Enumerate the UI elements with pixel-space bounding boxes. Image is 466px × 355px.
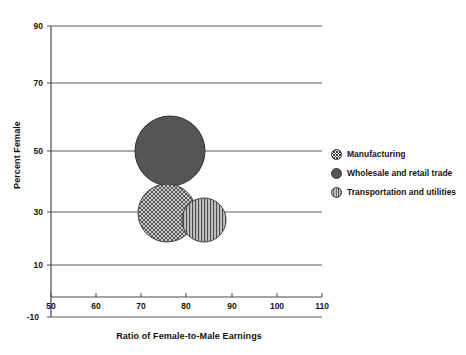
x-tick-label: 50 [38, 301, 64, 311]
y-tick-label: 70 [17, 78, 43, 88]
bubble-transportation-and-utilities [182, 198, 226, 242]
legend-label: Wholesale and retail trade [347, 169, 452, 178]
x-tick-label: 100 [264, 301, 290, 311]
y-tick-label: 10 [17, 260, 43, 270]
legend-item-wholesale-and-retail-trade[interactable]: Wholesale and retail trade [331, 164, 463, 183]
x-tick-label: 60 [83, 301, 109, 311]
legend-item-transportation-and-utilities[interactable]: Transportation and utilities [331, 183, 463, 202]
legend-label: Transportation and utilities [347, 188, 456, 197]
y-tick-label: 90 [17, 21, 43, 31]
y-tick-label: 30 [17, 207, 43, 217]
x-tick-label: 80 [173, 301, 199, 311]
crosshatch-circle-icon [331, 149, 342, 160]
x-tick-label: 110 [309, 301, 335, 311]
solid-circle-icon [331, 168, 342, 179]
y-tick-label: -10 [13, 312, 39, 322]
x-axis-title: Ratio of Female-to-Male Earnings [74, 331, 304, 341]
y-axis-line [47, 26, 51, 317]
y-tick-label: 50 [17, 146, 43, 156]
bubble-chart: Percent Female Ratio of Female-to-Male E… [0, 0, 466, 355]
striped-circle-icon [331, 187, 342, 198]
x-tick-label: 90 [219, 301, 245, 311]
bubble-wholesale-and-retail-trade [135, 116, 205, 186]
x-tick-label: 70 [128, 301, 154, 311]
x-axis-line [51, 293, 322, 297]
legend-label: Manufacturing [347, 150, 406, 159]
chart-legend: Manufacturing Wholesale and retail trade… [331, 145, 463, 202]
legend-item-manufacturing[interactable]: Manufacturing [331, 145, 463, 164]
